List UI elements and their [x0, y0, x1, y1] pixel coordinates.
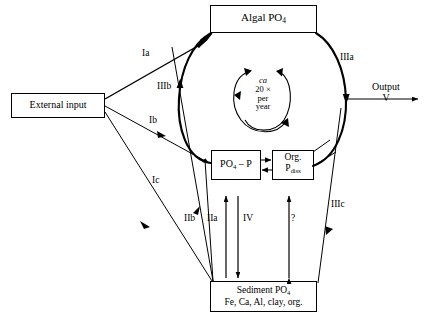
cycle-line4: year — [243, 102, 283, 111]
sediment-po4-label: Sediment PO4 Fe, Ca, Al, clay, org. — [211, 285, 316, 307]
edge-label-IIIa: IIIa — [340, 52, 354, 62]
output-line1: Output — [358, 81, 414, 92]
edge-label-IIIb-text: IIIb — [157, 81, 171, 91]
orgbox-to-loop-connector — [313, 140, 330, 152]
arrow-Ia — [105, 43, 203, 99]
sediment-line2: Fe, Ca, Al, clay, org. — [211, 297, 316, 308]
edge-label-IV-text: IV — [243, 213, 253, 223]
edge-label-Ia: Ia — [142, 48, 149, 58]
loop-left-thick-arc — [179, 33, 211, 163]
arrow-Ib — [105, 106, 209, 163]
edge-label-Ic-text: Ic — [152, 175, 159, 185]
arrow-Ib-midhead — [157, 131, 166, 138]
edge-label-IIIa-text: IIIa — [340, 52, 354, 62]
edge-label-IIa: IIa — [207, 213, 218, 223]
external-input-label: External input — [12, 99, 104, 110]
algal-po4-sub: 4 — [282, 16, 286, 25]
cycle-outer-arrowhead — [244, 68, 252, 76]
arrow-IIIc-midhead — [325, 226, 333, 235]
org-pdiss-line2-wrap: Pdiss — [273, 163, 313, 174]
edge-label-IV: IV — [243, 213, 253, 223]
arrow-IIIc — [318, 108, 341, 283]
output-label: Output V — [358, 81, 414, 103]
edge-label-unknown: ? — [291, 213, 295, 223]
org-pdiss-sub: diss — [291, 166, 301, 173]
edge-label-unknown-text: ? — [291, 213, 295, 223]
edge-label-IIIb: IIIb — [157, 81, 171, 91]
output-line2: V — [358, 92, 414, 103]
edge-label-Ic: Ic — [152, 175, 159, 185]
edge-label-IIa-text: IIa — [207, 213, 218, 223]
edge-label-Ib: Ib — [149, 115, 157, 125]
algal-po4-text: Algal PO — [241, 11, 282, 23]
org-pdiss-line1: Org. — [273, 152, 313, 163]
cycle-left-arrowhead — [234, 91, 241, 100]
edge-label-Ia-text: Ia — [142, 48, 149, 58]
po4-p-text: PO — [220, 158, 233, 169]
sediment-line1: Sediment PO — [237, 285, 287, 295]
algal-po4-label: Algal PO4 — [211, 11, 316, 25]
diagram-canvas: Algal PO4 External input PO4 – P Org. Pd… — [0, 0, 426, 325]
edge-label-IIb: IIb — [184, 213, 195, 223]
po4-p-text2: – P — [236, 158, 252, 169]
orgbox-to-loop-connector-2 — [313, 152, 336, 166]
edge-label-Ib-text: Ib — [149, 115, 157, 125]
sediment-line1-wrap: Sediment PO4 — [211, 285, 316, 296]
edge-label-IIIc: IIIc — [331, 199, 345, 209]
arrow-Ic-midhead — [140, 221, 150, 229]
edge-label-IIIc-text: IIIc — [331, 199, 345, 209]
edge-label-IIb-text: IIb — [184, 213, 195, 223]
po4-p-label: PO4 – P — [212, 158, 260, 170]
sediment-sub: 4 — [287, 289, 290, 296]
external-input-text: External input — [30, 99, 87, 110]
org-pdiss-label: Org. Pdiss — [273, 152, 313, 173]
arrow-IIIb — [172, 47, 213, 281]
cycle-rate-label: ca 20 × per year — [243, 76, 283, 111]
